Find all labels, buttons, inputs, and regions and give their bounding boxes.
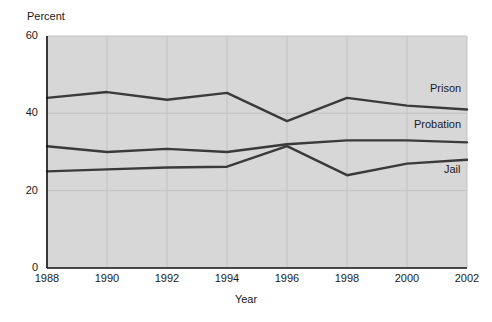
- x-axis-tick-label: 1988: [24, 272, 70, 284]
- x-axis-tick-label: 1996: [264, 272, 310, 284]
- x-axis-tick-label: 1992: [144, 272, 190, 284]
- x-axis-tick-label: 2000: [384, 272, 430, 284]
- y-axis-tick-label: 60: [8, 29, 38, 41]
- line-chart: Percent Year 020406019881990199219941996…: [0, 0, 492, 322]
- series-label-jail: Jail: [444, 163, 461, 175]
- x-axis-tick-label: 1990: [84, 272, 130, 284]
- x-axis-title: Year: [0, 293, 492, 305]
- series-label-prison: Prison: [430, 82, 461, 94]
- series-label-probation: Probation: [414, 118, 461, 130]
- x-axis-tick-label: 2002: [444, 272, 490, 284]
- y-axis-tick-label: 40: [8, 106, 38, 118]
- x-axis-tick-label: 1994: [204, 272, 250, 284]
- y-axis-tick-label: 20: [8, 184, 38, 196]
- x-axis-tick-label: 1998: [324, 272, 370, 284]
